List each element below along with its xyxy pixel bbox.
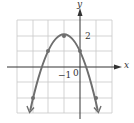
parabola-graph <box>0 0 134 123</box>
point-left-1 <box>46 49 50 53</box>
x-tick-label-neg1: −1 <box>58 71 71 80</box>
x-axis-arrow-icon <box>114 65 122 70</box>
point-right-neg2 <box>94 96 98 100</box>
origin-label: 0 <box>73 69 79 78</box>
point-vertex <box>62 34 66 38</box>
y-axis-label: y <box>77 0 82 9</box>
point-left-neg2 <box>31 96 35 100</box>
axes <box>7 12 118 119</box>
point-right-1 <box>78 49 82 53</box>
y-axis-arrow-icon <box>78 8 83 16</box>
x-axis-label: x <box>124 61 129 70</box>
y-tick-label-2: 2 <box>85 32 91 41</box>
